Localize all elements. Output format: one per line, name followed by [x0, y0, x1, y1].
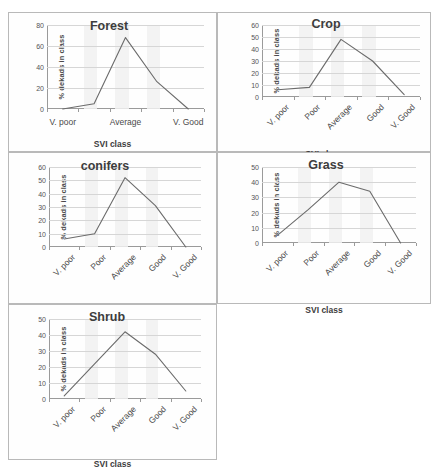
data-series-line	[262, 25, 420, 97]
y-tick-label: 20	[251, 209, 259, 216]
chart-forest: % dekads in class020406080ForestV. poorA…	[9, 13, 216, 151]
x-tick-label: V. poor	[265, 248, 291, 274]
plot-area: 01020304050	[49, 319, 201, 399]
x-tick	[294, 97, 295, 100]
y-tick-label: 20	[251, 70, 259, 77]
x-tick	[110, 247, 111, 250]
y-tick-label: 0	[255, 94, 259, 101]
x-tick	[110, 109, 111, 112]
x-axis-title: SVI class	[218, 305, 430, 315]
x-tick-label: Good	[361, 248, 383, 270]
chart-title: Crop	[311, 17, 340, 31]
x-tick	[140, 247, 141, 250]
y-tick-label: 30	[38, 348, 46, 355]
y-tick-label: 0	[255, 240, 259, 247]
y-tick-label: 40	[251, 179, 259, 186]
chart-panel-grass: % dekads in class01020304050GrassV. poor…	[217, 152, 431, 304]
chart-panel-conifers: % dekads in class0102030405060conifersV.…	[8, 152, 217, 304]
x-tick-label: V. Good	[173, 117, 203, 127]
chart-title: Forest	[90, 19, 128, 33]
x-tick	[141, 109, 142, 112]
y-tick-label: 30	[38, 204, 46, 211]
x-tick-label: V. Good	[170, 404, 199, 433]
data-series-line	[49, 319, 201, 399]
plot-area: 020406080	[47, 25, 204, 109]
x-tick-label: Poor	[88, 252, 108, 272]
x-tick	[171, 399, 172, 402]
y-tick-label: 20	[36, 85, 44, 92]
y-tick-label: 50	[38, 177, 46, 184]
x-tick	[110, 399, 111, 402]
y-tick-label: 40	[38, 190, 46, 197]
x-tick	[173, 109, 174, 112]
x-tick	[49, 247, 50, 250]
figure-sheet: % dekads in class020406080ForestV. poorA…	[0, 0, 439, 472]
x-tick	[357, 97, 358, 100]
y-tick-label: 40	[36, 64, 44, 71]
x-tick-label: Poor	[303, 102, 323, 122]
data-series-line	[47, 25, 204, 109]
x-tick-label: Average	[323, 248, 352, 277]
plot-area: 0102030405060	[49, 167, 201, 247]
x-tick	[262, 243, 263, 246]
y-tick-label: 0	[40, 106, 44, 113]
x-tick-label: Poor	[301, 248, 321, 268]
x-tick	[420, 97, 421, 100]
x-tick	[140, 399, 141, 402]
x-tick	[201, 247, 202, 250]
plot-area: 0102030405060	[262, 25, 420, 97]
x-tick-label: V. poor	[49, 117, 76, 127]
x-axis-title: SVI class	[9, 459, 216, 469]
chart-panel-shrub: % dekads in class01020304050ShrubV. poor…	[8, 304, 217, 460]
y-tick-label: 30	[251, 194, 259, 201]
y-tick-label: 60	[251, 22, 259, 29]
y-tick-label: 10	[251, 82, 259, 89]
x-tick-label: Average	[109, 404, 138, 433]
x-tick	[204, 109, 205, 112]
data-series-line	[49, 167, 201, 247]
x-tick-label: V. poor	[51, 252, 77, 278]
x-tick	[47, 109, 48, 112]
x-tick-label: Good	[147, 252, 169, 274]
x-tick-label: Average	[110, 117, 142, 127]
y-tick-label: 60	[36, 43, 44, 50]
x-tick-label: V. Good	[170, 252, 199, 281]
y-tick-label: 60	[38, 164, 46, 171]
y-tick-label: 50	[251, 164, 259, 171]
x-tick	[324, 243, 325, 246]
x-tick-label: Average	[109, 252, 138, 281]
y-tick-label: 40	[251, 46, 259, 53]
y-tick-label: 10	[38, 230, 46, 237]
chart-panel-crop: % dekads in class0102030405060CropV. poo…	[217, 12, 431, 152]
chart-shrub: % dekads in class01020304050ShrubV. poor…	[9, 305, 216, 459]
x-tick	[262, 97, 263, 100]
x-tick-label: Average	[325, 102, 354, 131]
x-tick-label: V. Good	[385, 248, 414, 277]
x-tick	[201, 399, 202, 402]
y-tick-label: 20	[38, 217, 46, 224]
chart-title: conifers	[81, 159, 130, 173]
y-tick-label: 40	[38, 332, 46, 339]
x-tick	[78, 109, 79, 112]
y-tick-label: 20	[38, 364, 46, 371]
chart-panel-forest: % dekads in class020406080ForestV. poorA…	[8, 12, 217, 152]
x-tick	[171, 247, 172, 250]
x-tick-label: Good	[147, 404, 169, 426]
chart-conifers: % dekads in class0102030405060conifersV.…	[9, 153, 216, 303]
x-tick	[79, 399, 80, 402]
y-tick-label: 10	[251, 224, 259, 231]
plot-area: 01020304050	[262, 167, 416, 243]
y-tick-label: 30	[251, 58, 259, 65]
x-tick	[293, 243, 294, 246]
y-tick-label: 0	[42, 396, 46, 403]
x-tick	[354, 243, 355, 246]
x-tick	[416, 243, 417, 246]
chart-title: Shrub	[89, 310, 125, 324]
y-tick-label: 10	[38, 380, 46, 387]
y-tick-label: 80	[36, 22, 44, 29]
y-tick-label: 50	[38, 316, 46, 323]
chart-crop: % dekads in class0102030405060CropV. poo…	[218, 13, 430, 151]
x-tick	[49, 399, 50, 402]
chart-grass: % dekads in class01020304050GrassV. poor…	[218, 153, 430, 303]
y-tick-label: 50	[251, 34, 259, 41]
